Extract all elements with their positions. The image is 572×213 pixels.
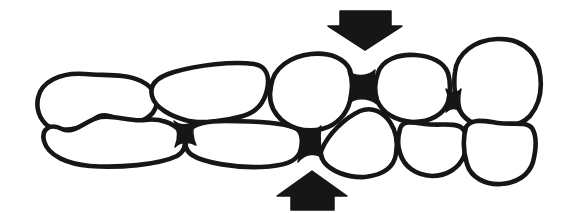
cell-top-5 [454, 39, 540, 128]
junction-right-icon [446, 89, 462, 112]
cell-top-3 [270, 54, 352, 131]
cell-bottom-2 [186, 121, 302, 167]
diagram-svg [0, 0, 572, 213]
junction-upper-center-icon [348, 70, 377, 104]
cell-top-2 [151, 63, 268, 122]
cell-cluster [37, 39, 540, 184]
cell-top-4 [375, 55, 450, 122]
down-block-arrow-icon [328, 11, 402, 50]
cell-bottom-5 [464, 121, 536, 184]
junction-left-icon [174, 121, 196, 147]
junction-lower-center-icon [297, 126, 324, 162]
cell-bottom-4 [398, 122, 467, 176]
cell-compression-diagram [0, 0, 572, 213]
up-block-arrow-icon [277, 171, 347, 210]
